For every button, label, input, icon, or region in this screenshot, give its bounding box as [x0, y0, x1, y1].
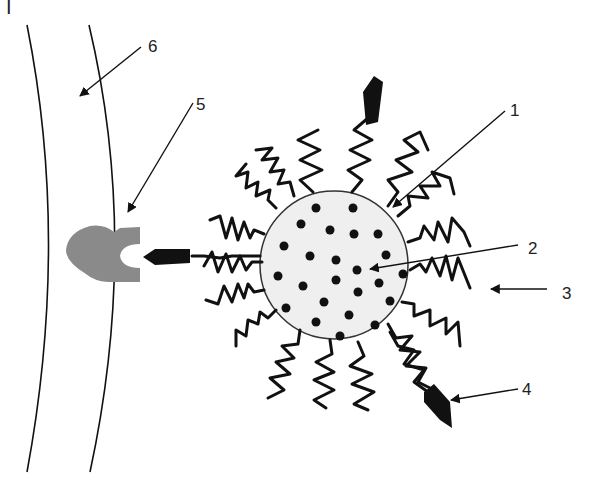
ligand-left	[143, 249, 190, 265]
label-5: 5	[196, 95, 205, 114]
label-4: 4	[522, 380, 531, 399]
ligand-top	[363, 76, 383, 125]
panel-label: I	[6, 0, 12, 18]
label-2: 2	[528, 239, 537, 258]
nanoparticle-diagram: I	[0, 0, 598, 485]
label-6: 6	[148, 37, 157, 56]
ligand-bottom	[424, 384, 452, 428]
receptor-shape	[66, 226, 140, 282]
label-3: 3	[562, 284, 571, 303]
nanoparticle-core	[260, 191, 408, 339]
label-1: 1	[510, 101, 519, 120]
